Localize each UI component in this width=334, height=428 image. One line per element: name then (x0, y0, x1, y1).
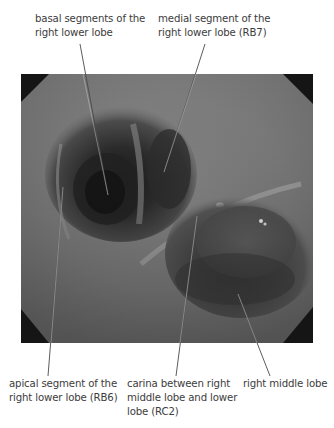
label-line: medial segment of the (158, 12, 270, 26)
scope-frame-corner (283, 74, 313, 104)
label-line: basal segments of the (35, 12, 145, 26)
scope-frame-corner (283, 307, 313, 343)
label-line: right middle lobe (243, 377, 327, 391)
airway-illustration (21, 74, 313, 343)
label-line: right lower lobe (RB6) (9, 391, 118, 405)
label-line: lobe (RC2) (127, 405, 237, 419)
label-right-middle-lobe: right middle lobe (243, 377, 327, 391)
label-medial-segment-rb7: medial segment of the right lower lobe (… (158, 12, 270, 40)
label-line: right lower lobe (RB7) (158, 26, 270, 40)
label-apical-segment-rb6: apical segment of the right lower lobe (… (9, 377, 118, 405)
bronchoscopy-image (21, 74, 313, 343)
label-line: carina between right (127, 377, 237, 391)
label-carina-rc2: carina between right middle lobe and low… (127, 377, 237, 419)
scope-frame-corner (21, 309, 49, 343)
label-line: apical segment of the (9, 377, 118, 391)
label-line: right lower lobe (35, 26, 145, 40)
scope-frame-corner (21, 74, 49, 102)
label-line: middle lobe and lower (127, 391, 237, 405)
label-basal-segments-rll: basal segments of the right lower lobe (35, 12, 145, 40)
